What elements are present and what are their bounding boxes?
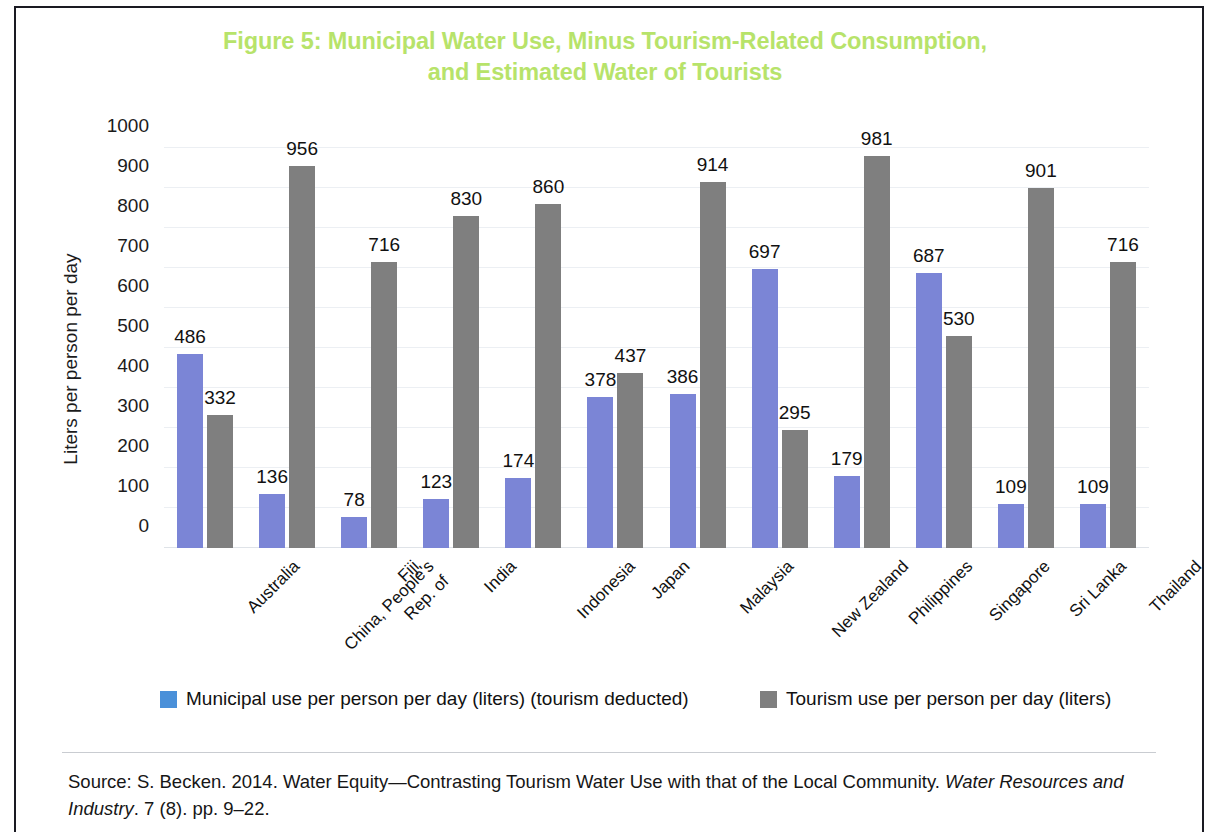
- bar[interactable]: [617, 373, 643, 548]
- bar[interactable]: [289, 166, 315, 548]
- bar[interactable]: [341, 517, 367, 548]
- bar-value-label: 179: [831, 448, 863, 470]
- y-axis-tick-label: 500: [57, 315, 149, 337]
- bar-group: 486332: [164, 148, 246, 548]
- bar-value-label: 956: [286, 138, 318, 160]
- bar-value-label: 486: [174, 326, 206, 348]
- bar[interactable]: [177, 354, 203, 548]
- x-axis-label: Australia: [242, 556, 304, 618]
- x-axis-label: India: [480, 556, 521, 597]
- bar[interactable]: [834, 476, 860, 548]
- x-axis-label-line: Philippines: [904, 557, 976, 629]
- bar[interactable]: [670, 394, 696, 548]
- bar-group: 378437: [574, 148, 656, 548]
- plot-area: 01002003004005006007008009001000 4863321…: [164, 148, 1149, 548]
- y-axis-tick-label: 700: [57, 235, 149, 257]
- bar-value-label: 437: [615, 345, 647, 367]
- bar[interactable]: [505, 478, 531, 548]
- bar[interactable]: [453, 216, 479, 548]
- legend-color-swatch: [760, 691, 777, 708]
- legend-color-swatch: [160, 691, 177, 708]
- source-note: Source: S. Becken. 2014. Water Equity—Co…: [68, 768, 1153, 822]
- x-axis-label-line: Japan: [648, 557, 694, 603]
- x-axis-label-line: Thailand: [1146, 557, 1206, 617]
- x-axis-label-line: Indonesia: [574, 557, 640, 623]
- y-axis-tick-label: 900: [57, 155, 149, 177]
- legend-item[interactable]: Municipal use per person per day (liters…: [160, 688, 689, 710]
- bar-value-label: 530: [943, 308, 975, 330]
- bar-value-label: 697: [749, 241, 781, 263]
- bar[interactable]: [998, 504, 1024, 548]
- y-axis-tick-label: 1000: [57, 115, 149, 137]
- bar-group: 109716: [1067, 148, 1149, 548]
- y-axis-tick-label: 100: [57, 475, 149, 497]
- y-axis-tick-label: 800: [57, 195, 149, 217]
- bar[interactable]: [371, 262, 397, 548]
- legend-label: Municipal use per person per day (liters…: [186, 688, 689, 710]
- source-text-part-1: Source: S. Becken. 2014. Water Equity—Co…: [68, 771, 945, 792]
- x-axis-label-line: Australia: [243, 557, 303, 617]
- figure-title-line-1: Figure 5: Municipal Water Use, Minus Tou…: [100, 26, 1110, 57]
- bar-group: 386914: [657, 148, 739, 548]
- x-axis-label: Malaysia: [735, 556, 797, 618]
- figure-title: Figure 5: Municipal Water Use, Minus Tou…: [100, 26, 1110, 88]
- source-text-part-2: . 7 (8). pp. 9–22.: [134, 798, 270, 819]
- bar-value-label: 378: [585, 369, 617, 391]
- legend-item[interactable]: Tourism use per person per day (liters): [760, 688, 1111, 710]
- bar-value-label: 901: [1025, 160, 1057, 182]
- bar-value-label: 386: [667, 366, 699, 388]
- bar-value-label: 123: [420, 471, 452, 493]
- bar-value-label: 332: [204, 387, 236, 409]
- figure-title-line-2: and Estimated Water of Tourists: [100, 57, 1110, 88]
- bar[interactable]: [782, 430, 808, 548]
- x-axis-label: Indonesia: [573, 556, 640, 623]
- x-axis-label: Japan: [647, 556, 695, 604]
- y-axis-tick-label: 0: [57, 515, 149, 537]
- bar-value-label: 687: [913, 245, 945, 267]
- bar[interactable]: [587, 397, 613, 548]
- y-axis-tick-label: 600: [57, 275, 149, 297]
- bar-group: 123830: [410, 148, 492, 548]
- bar[interactable]: [535, 204, 561, 548]
- chart-area: Liters per person per day 01002003004005…: [36, 130, 1166, 675]
- bar[interactable]: [864, 156, 890, 548]
- bar-value-label: 860: [533, 176, 565, 198]
- bar-group: 136956: [246, 148, 328, 548]
- bar-value-label: 174: [503, 450, 535, 472]
- bar[interactable]: [1110, 262, 1136, 548]
- bar-value-label: 830: [450, 188, 482, 210]
- bar[interactable]: [1080, 504, 1106, 548]
- bar-group: 78716: [328, 148, 410, 548]
- x-axis-label: Thailand: [1145, 556, 1206, 617]
- x-axis-label-line: New Zealand: [828, 557, 912, 641]
- bar-group: 109901: [985, 148, 1067, 548]
- bar[interactable]: [423, 499, 449, 548]
- bar-value-label: 914: [697, 154, 729, 176]
- bar[interactable]: [259, 494, 285, 548]
- bar-value-label: 716: [368, 234, 400, 256]
- x-axis-label-line: Malaysia: [736, 557, 797, 618]
- x-axis-label: Philippines: [904, 556, 977, 629]
- x-axis-label: Singapore: [984, 556, 1054, 626]
- legend-label: Tourism use per person per day (liters): [786, 688, 1111, 710]
- x-axis-label: New Zealand: [827, 556, 913, 642]
- y-axis-tick-label: 300: [57, 395, 149, 417]
- bar[interactable]: [700, 182, 726, 548]
- bar[interactable]: [1028, 188, 1054, 548]
- bar-value-label: 981: [861, 128, 893, 150]
- bar-group: 179981: [821, 148, 903, 548]
- bar[interactable]: [946, 336, 972, 548]
- y-axis-tick-label: 400: [57, 355, 149, 377]
- bar-value-label: 109: [1077, 476, 1109, 498]
- figure-page: Figure 5: Municipal Water Use, Minus Tou…: [0, 0, 1216, 838]
- y-axis-tick-label: 200: [57, 435, 149, 457]
- bar-value-label: 109: [995, 476, 1027, 498]
- bar-group: 697295: [739, 148, 821, 548]
- bar[interactable]: [207, 415, 233, 548]
- bar-value-label: 136: [256, 466, 288, 488]
- bar-group: 687530: [903, 148, 985, 548]
- x-axis-label-line: Sri Lanka: [1066, 557, 1130, 621]
- bar[interactable]: [752, 269, 778, 548]
- bar[interactable]: [916, 273, 942, 548]
- bar-value-label: 295: [779, 402, 811, 424]
